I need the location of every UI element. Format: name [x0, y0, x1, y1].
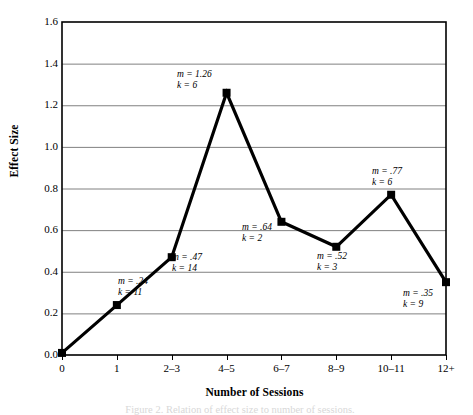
data-point-annotations: m = .24k = 11m = .47k = 14m = 1.26k = 6m…: [0, 0, 473, 415]
annotation-mean: m = .77: [372, 166, 442, 177]
annotation-mean: m = .24: [118, 276, 188, 287]
annotation-mean: m = .35: [403, 288, 473, 299]
annotation-k: k = 11: [118, 287, 188, 298]
data-point-annotation: m = .24k = 11: [118, 276, 188, 297]
data-point-annotation: m = 1.26k = 6: [177, 69, 247, 90]
data-point-annotation: m = .35k = 9: [403, 288, 473, 309]
figure-effect-size-by-sessions: Effect Size 1.61.41.21.00.80.60.40.20.0 …: [0, 0, 473, 415]
data-point-annotation: m = .77k = 6: [372, 166, 442, 187]
annotation-mean: m = .52: [317, 251, 387, 262]
x-axis-title: Number of Sessions: [62, 386, 447, 398]
annotation-mean: m = 1.26: [177, 69, 247, 80]
figure-caption: Figure 2. Relation of effect size to num…: [30, 404, 450, 415]
annotation-k: k = 14: [172, 263, 242, 274]
data-point-annotation: m = .47k = 14: [172, 252, 242, 273]
annotation-mean: m = .64: [242, 222, 312, 233]
data-point-annotation: m = .52k = 3: [317, 251, 387, 272]
annotation-k: k = 9: [403, 299, 473, 310]
annotation-mean: m = .47: [172, 252, 242, 263]
annotation-k: k = 2: [242, 233, 312, 244]
annotation-k: k = 3: [317, 262, 387, 273]
annotation-k: k = 6: [177, 80, 247, 91]
data-point-annotation: m = .64k = 2: [242, 222, 312, 243]
annotation-k: k = 6: [372, 177, 442, 188]
